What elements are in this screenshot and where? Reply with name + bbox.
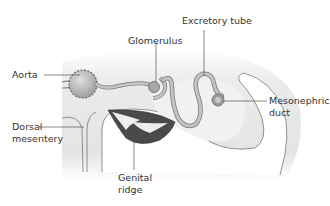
label-dorsal-mesentery-line2: mesentery [12,133,63,145]
label-genital-ridge-line2: ridge [118,184,142,196]
label-aorta: Aorta [12,69,38,81]
label-dorsal-mesentery-line1: Dorsal [12,121,42,133]
label-genital-ridge-line1: Genital [118,172,152,184]
label-mesonephric-duct-line1: Mesonephric [269,95,330,107]
label-excretory-tube: Excretory tube [182,15,252,27]
label-mesonephric-duct-line2: duct [269,107,290,119]
label-glomerulus: Glomerulus [128,35,182,47]
mesonephric-duct [212,94,224,106]
